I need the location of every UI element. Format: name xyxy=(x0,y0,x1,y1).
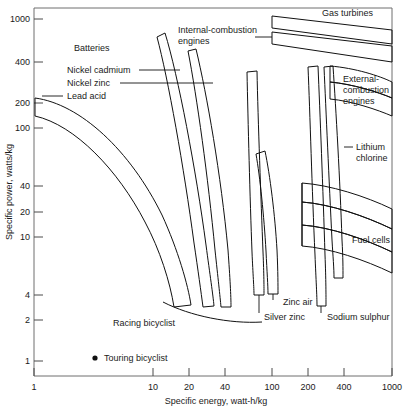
annotation-racing-bicyclist: Racing bicyclist xyxy=(113,318,176,328)
annotation-zinc-air: Zinc air xyxy=(283,297,313,307)
annotation-external-combustion-line1: External- xyxy=(343,74,379,84)
annotation-internal-combustion-line1: Internal-combustion xyxy=(178,25,257,35)
y-tick-label-10: 10 xyxy=(20,232,30,242)
region-zinc-air xyxy=(256,151,278,294)
y-tick-label-1: 1 xyxy=(25,356,30,366)
annotation-gas-turbines: Gas turbines xyxy=(322,8,374,18)
x-axis-ticks xyxy=(34,368,392,376)
x-tick-label-10: 10 xyxy=(148,382,158,392)
annotation-batteries: Batteries xyxy=(74,43,110,53)
y-tick-label-400: 400 xyxy=(15,57,30,67)
region-gas-turbines xyxy=(272,16,392,44)
annotation-lithium-chlorine-line2: chlorine xyxy=(356,153,388,163)
y-axis-ticks xyxy=(34,19,43,361)
annotation-lithium-chlorine-line1: Lithium xyxy=(356,142,385,152)
point-touring-bicyclist xyxy=(92,355,97,360)
y-axis-title: Specific power, watts/kg xyxy=(4,144,14,240)
y-tick-label-200: 200 xyxy=(15,98,30,108)
region-silver-zinc xyxy=(247,71,264,295)
specific-power-vs-specific-energy-chart: 1000 400 200 100 40 20 10 4 2 1 1 10 20 xyxy=(0,0,409,407)
x-axis-title: Specific energy, watt-h/kg xyxy=(165,396,267,406)
region-lithium-chlorine xyxy=(324,66,343,278)
x-tick-label-1: 1 xyxy=(31,382,36,392)
region-nickel-cadmium xyxy=(157,33,214,307)
annotation-external-combustion-line3: engines xyxy=(343,96,375,106)
x-tick-label-40: 40 xyxy=(220,382,230,392)
y-tick-label-4: 4 xyxy=(25,290,30,300)
chart-container: 1000 400 200 100 40 20 10 4 2 1 1 10 20 xyxy=(0,0,409,407)
annotation-nickel-zinc: Nickel zinc xyxy=(67,78,111,88)
annotation-silver-zinc: Silver zinc xyxy=(264,312,306,322)
annotation-touring-bicyclist: Touring bicyclist xyxy=(104,353,168,363)
region-lead-acid xyxy=(35,98,191,307)
x-tick-label-20: 20 xyxy=(184,382,194,392)
x-tick-label-400: 400 xyxy=(336,382,351,392)
x-tick-label-1000: 1000 xyxy=(382,382,402,392)
annotation-lead-acid: Lead acid xyxy=(67,91,106,101)
y-tick-label-2: 2 xyxy=(25,315,30,325)
y-tick-label-1000: 1000 xyxy=(10,14,30,24)
y-tick-label-20: 20 xyxy=(20,207,30,217)
x-axis-tick-labels: 1 10 20 40 100 200 400 1000 xyxy=(31,382,402,392)
annotation-external-combustion-line2: combustion xyxy=(343,85,389,95)
y-tick-label-100: 100 xyxy=(15,123,30,133)
x-tick-label-200: 200 xyxy=(300,382,315,392)
annotation-internal-combustion-line2: engines xyxy=(178,36,210,46)
curve-racing-bicyclist xyxy=(163,302,262,322)
annotation-nickel-cadmium: Nickel cadmium xyxy=(67,65,131,75)
annotation-fuel-cells: Fuel cells xyxy=(352,235,391,245)
annotation-sodium-sulphur: Sodium sulphur xyxy=(327,312,390,322)
y-tick-label-40: 40 xyxy=(20,181,30,191)
x-tick-label-100: 100 xyxy=(264,382,279,392)
